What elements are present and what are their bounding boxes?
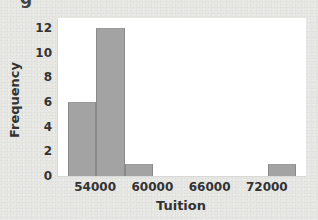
y-tick-label: 2	[30, 144, 52, 158]
x-tick-label: 54000	[74, 180, 116, 194]
plot-area	[57, 18, 306, 177]
x-tick-label: 60000	[132, 180, 174, 194]
x-tick-label: 66000	[189, 180, 231, 194]
y-tick-label: 12	[30, 21, 52, 35]
histogram-bar	[96, 28, 125, 176]
y-axis-label: Frequency	[7, 62, 22, 138]
y-tick-label: 6	[30, 95, 52, 109]
y-tick-label: 10	[30, 46, 52, 60]
histogram-bar	[68, 102, 97, 176]
y-tick-label: 4	[30, 120, 52, 134]
x-axis-label: Tuition	[156, 198, 206, 213]
histogram-bar	[125, 164, 154, 176]
y-tick-label: 0	[30, 169, 52, 183]
y-tick-label: 8	[30, 70, 52, 84]
cropped-text-fragment: g	[20, 0, 32, 8]
histogram-bar	[268, 164, 297, 176]
x-tick-label: 72000	[246, 180, 288, 194]
